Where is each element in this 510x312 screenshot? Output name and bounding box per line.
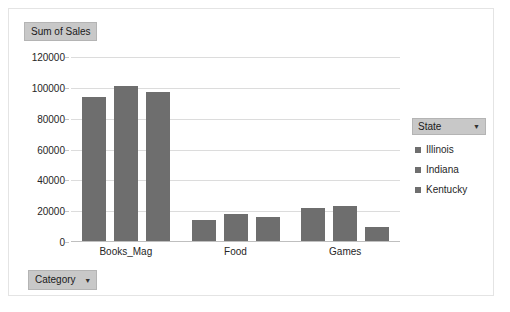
bar-slot [365,57,389,242]
y-axis-tick [65,180,69,181]
y-axis-tick [65,119,69,120]
y-axis-tick-label: 0 [5,237,65,248]
value-field-button-label: Sum of Sales [31,26,90,37]
x-axis-tick-label: Food [181,246,291,257]
bar[interactable] [301,208,325,242]
legend-item[interactable]: Illinois [412,144,488,155]
plot-area [71,57,400,242]
legend-item[interactable]: Indiana [412,164,488,175]
legend-swatch-icon [415,167,421,173]
bar-group [181,57,291,242]
bar[interactable] [146,92,170,242]
x-axis-tick-label: Games [290,246,400,257]
legend-item-label: Kentucky [426,184,467,195]
category-field-button[interactable]: Category ▼ [28,270,97,290]
bar[interactable] [192,220,216,242]
legend-field-button[interactable]: State ▼ [412,118,486,135]
pivot-chart: Sum of Sales 020000400006000080000100000… [0,0,510,312]
y-axis-tick-label: 20000 [5,206,65,217]
bar-groups [71,57,400,242]
axis-baseline [71,241,400,242]
bar-slot [192,57,216,242]
legend: State ▼ IllinoisIndianaKentucky [412,118,488,195]
y-axis-tick [65,211,69,212]
bar-slot [301,57,325,242]
y-axis-tick-label: 60000 [5,144,65,155]
bar-group [290,57,400,242]
legend-swatch-icon [415,187,421,193]
bar[interactable] [224,214,248,242]
chevron-down-icon: ▼ [84,274,91,287]
bar[interactable] [333,206,357,242]
y-axis-tick-label: 80000 [5,113,65,124]
bar-slot [114,57,138,242]
x-axis-tick-label: Books_Mag [71,246,181,257]
y-axis-tick [65,57,69,58]
legend-entries: IllinoisIndianaKentucky [412,144,488,195]
legend-item-label: Indiana [426,164,459,175]
bar-group [71,57,181,242]
bar-slot [333,57,357,242]
legend-item-label: Illinois [426,144,454,155]
bar-slot [146,57,170,242]
legend-swatch-icon [415,147,421,153]
y-axis-tick-label: 40000 [5,175,65,186]
bar[interactable] [82,97,106,242]
y-axis-tick-label: 100000 [5,82,65,93]
category-field-button-label: Category [35,274,76,285]
y-axis-tick [65,88,69,89]
bar-slot [256,57,280,242]
y-axis-tick-label: 120000 [5,52,65,63]
chevron-down-icon: ▼ [473,120,480,133]
bar[interactable] [114,86,138,242]
bar-slot [82,57,106,242]
legend-title-label: State [418,120,441,133]
y-axis-tick [65,242,69,243]
x-axis: Books_MagFoodGames [71,246,400,257]
bar[interactable] [256,217,280,242]
bar[interactable] [365,227,389,242]
bar-slot [224,57,248,242]
value-field-button[interactable]: Sum of Sales [24,22,97,41]
y-axis-tick [65,150,69,151]
y-axis: 020000400006000080000100000120000 [3,57,65,242]
legend-item[interactable]: Kentucky [412,184,488,195]
